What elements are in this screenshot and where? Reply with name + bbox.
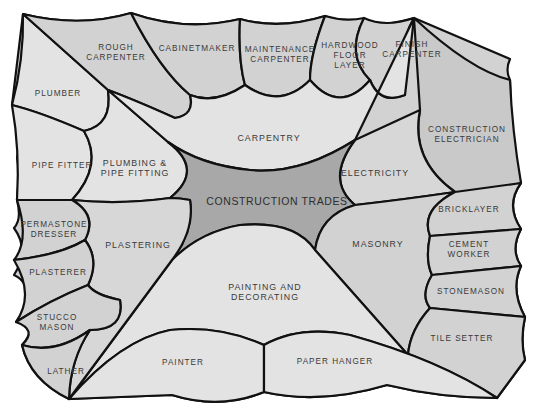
specialty-maintenance-carpenter: MAINTENANCE CARPENTER: [245, 45, 316, 65]
specialty-plumber: PLUMBER: [35, 89, 82, 99]
specialty-cement-worker: CEMENT WORKER: [448, 240, 491, 260]
trade-label-painting: PAINTING AND DECORATING: [228, 282, 301, 302]
specialty-construction-electrician: CONSTRUCTION ELECTRICIAN: [428, 125, 506, 145]
specialty-pipe-fitter: PIPE FITTER: [32, 161, 93, 171]
specialty-rough-carpenter: ROUGH CARPENTER: [86, 43, 146, 63]
trade-label-masonry: MASONRY: [352, 239, 403, 249]
specialty-finish-carpenter: FINISH CARPENTER: [382, 40, 442, 60]
trade-label-carpentry: CARPENTRY: [237, 133, 300, 143]
trade-label-plastering: PLASTERING: [105, 240, 171, 250]
specialty-hardwood-floor-layer: HARDWOOD FLOOR LAYER: [321, 41, 379, 71]
specialty-cabinetmaker: CABINETMAKER: [159, 44, 236, 54]
trade-label-electricity: ELECTRICITY: [341, 168, 409, 178]
specialty-lather: LATHER: [47, 367, 85, 377]
specialty-stonemason: STONEMASON: [437, 287, 505, 297]
specialty-plasterer: PLASTERER: [29, 268, 87, 278]
specialty-permastone-dresser: PERMASTONE DRESSER: [20, 220, 87, 240]
hub-label: CONSTRUCTION TRADES: [206, 196, 347, 206]
specialty-stucco-mason: STUCCO MASON: [37, 313, 78, 333]
specialty-tile-setter: TILE SETTER: [431, 334, 494, 344]
specialty-bricklayer: BRICKLAYER: [438, 205, 499, 215]
specialty-painter: PAINTER: [162, 358, 204, 368]
trade-label-plumbing: PLUMBING & PIPE FITTING: [101, 158, 170, 178]
specialty-paper-hanger: PAPER HANGER: [297, 357, 373, 367]
